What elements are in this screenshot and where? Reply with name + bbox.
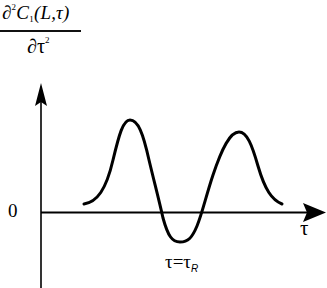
x-axis-label: τ [300,216,308,241]
second-derivative-curve [84,120,282,242]
tau-r-marker-label: τ=τR [165,251,198,274]
plot-area [0,0,327,288]
tau-r-subscript: R [191,263,198,274]
origin-label: 0 [8,200,18,222]
tau-r-main: τ=τ [165,251,191,272]
